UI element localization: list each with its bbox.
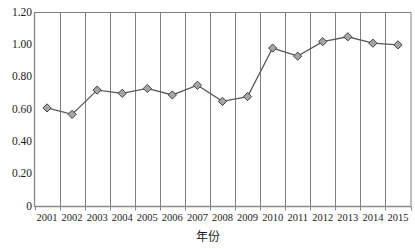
data-point-marker [168, 91, 176, 99]
data-point-marker [394, 41, 402, 49]
y-axis-tick-label: 0.40 [0, 136, 32, 148]
data-markers [43, 33, 402, 119]
y-axis-tick-label: 0 [0, 201, 32, 213]
gridlines-vertical [61, 13, 412, 207]
y-axis-tick-label: 1.20 [0, 7, 32, 19]
data-point-marker [344, 33, 352, 41]
line-chart: 1.201.000.800.600.400.200 20012002200320… [0, 0, 415, 249]
y-axis-tick-label: 0.80 [0, 71, 32, 83]
y-axis-tick-label: 0.60 [0, 104, 32, 116]
data-point-marker [269, 44, 277, 52]
x-axis-tick-label: 2015 [383, 212, 413, 223]
data-point-marker [294, 52, 302, 60]
data-point-marker [143, 84, 151, 92]
data-point-marker [218, 97, 226, 105]
data-point-marker [118, 89, 126, 97]
data-point-marker [243, 92, 251, 100]
y-axis-tick-label: 0.20 [0, 168, 32, 180]
data-point-marker [319, 38, 327, 46]
data-point-marker [193, 81, 201, 89]
y-axis-tick-label: 1.00 [0, 39, 32, 51]
data-point-marker [43, 104, 51, 112]
x-axis-title: 年份 [0, 230, 415, 244]
data-point-marker [369, 39, 377, 47]
